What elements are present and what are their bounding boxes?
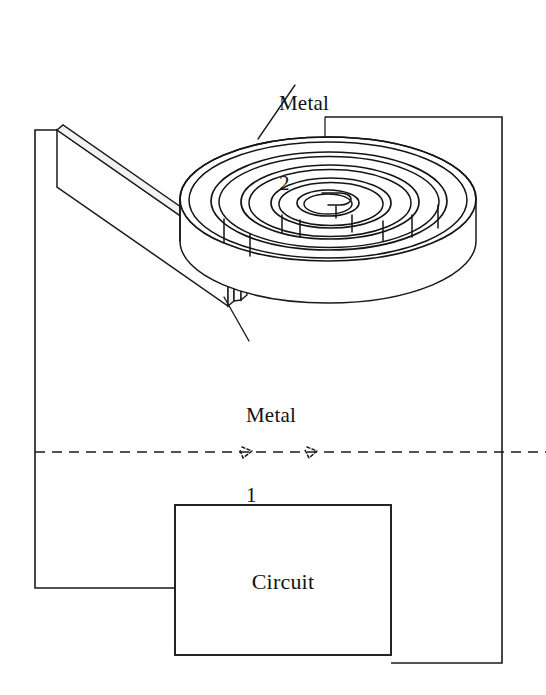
label-metal-1-line1: Metal (246, 402, 296, 429)
label-metal-2: Metal 2 (279, 36, 329, 251)
label-metal-2-line1: Metal (279, 90, 329, 117)
label-metal-1: Metal 1 (246, 348, 296, 563)
circuit-box-label: Circuit (175, 568, 391, 596)
figure-canvas: Metal 2 Metal 1 Circuit (0, 0, 546, 695)
label-metal-1-line2: 1 (246, 482, 296, 509)
label-metal-2-line2: 2 (279, 170, 329, 197)
leader-line-metal1 (224, 297, 249, 341)
